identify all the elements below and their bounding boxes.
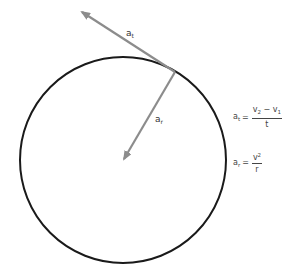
denominator: r [255, 164, 258, 174]
radial-acceleration-arrow [124, 72, 175, 159]
fraction: v2 − v1 t [252, 105, 282, 129]
circular-motion-diagram [0, 0, 295, 279]
denominator: t [265, 119, 268, 129]
numerator: v2 [252, 151, 262, 164]
tangential-arrow-label: at [126, 28, 134, 39]
circular-path [20, 57, 226, 263]
fraction: v2 r [252, 151, 262, 174]
lhs: ar [233, 158, 240, 168]
lhs: at [233, 112, 240, 122]
equals-sign: = [242, 158, 249, 167]
tangential-acceleration-arrow [82, 12, 175, 72]
label-subscript: t [132, 32, 134, 39]
radial-acceleration-equation: ar = v2 r [233, 151, 262, 174]
equals-sign: = [242, 113, 249, 122]
label-subscript: r [161, 118, 163, 125]
numerator: v2 − v1 [252, 105, 282, 119]
tangential-acceleration-equation: at = v2 − v1 t [233, 105, 282, 129]
radial-arrow-label: ar [155, 114, 163, 125]
